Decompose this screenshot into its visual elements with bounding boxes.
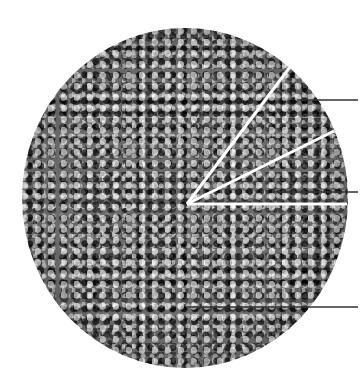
- pie-overlay: [0, 0, 361, 389]
- slice-divider-1: [187, 67, 290, 204]
- pie-chart: [0, 0, 361, 389]
- slice-divider-2: [187, 131, 334, 204]
